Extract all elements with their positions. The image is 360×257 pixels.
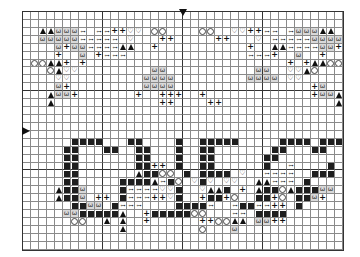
grid-cell: [247, 170, 255, 178]
grid-cell: [39, 139, 47, 147]
grid-cell: [55, 194, 63, 202]
grid-cell: [39, 67, 47, 75]
grid-cell: [39, 155, 47, 163]
grid-cell: [79, 131, 87, 139]
grid-cell: +: [199, 194, 207, 202]
grid-cell: [143, 20, 151, 28]
grid-cell: [183, 147, 191, 155]
grid-cell: [95, 67, 103, 75]
grid-cell: [239, 99, 247, 107]
grid-cell: [127, 226, 135, 234]
grid-cell: [111, 60, 119, 68]
grid-cell: [87, 194, 95, 202]
grid-cell: [191, 99, 199, 107]
grid-cell: [295, 202, 303, 210]
grid-cell: [199, 170, 207, 178]
grid-cell: [311, 202, 319, 210]
grid-cell: [31, 155, 39, 163]
grid-cell: [95, 83, 103, 91]
grid-cell: [335, 123, 343, 131]
grid-cell: [311, 131, 319, 139]
grid-cell: [191, 60, 199, 68]
grid-cell: [303, 123, 311, 131]
grid-cell: [103, 147, 111, 155]
grid-cell: [287, 12, 295, 20]
grid-cell: [151, 115, 159, 123]
grid-cell: [175, 28, 183, 36]
grid-cell: [231, 36, 239, 44]
filled-square-icon: [144, 179, 150, 185]
grid-cell: [207, 163, 215, 171]
grid-cell: [207, 194, 215, 202]
grid-cell: [135, 163, 143, 171]
grid-cell: [167, 226, 175, 234]
grid-cell: [135, 60, 143, 68]
grid-cell: [311, 12, 319, 20]
triangle-icon: [312, 60, 318, 66]
triangle-icon: [56, 60, 62, 66]
grid-cell: [223, 44, 231, 52]
grid-cell: ⊶: [87, 44, 95, 52]
grid-cell: [335, 115, 343, 123]
filled-square-icon: [264, 163, 270, 169]
plus-icon: +: [159, 36, 166, 43]
grid-cell: ⊶: [79, 28, 87, 36]
grid-cell: [271, 123, 279, 131]
grid-cell: ω: [311, 36, 319, 44]
grid-cell: [23, 202, 31, 210]
filled-square-icon: [112, 147, 118, 153]
omega-icon: ω: [263, 218, 270, 225]
circle-icon: [279, 194, 286, 201]
grid-cell: +: [207, 99, 215, 107]
grid-cell: [103, 139, 111, 147]
grid-cell: [207, 123, 215, 131]
triangle-icon: [280, 44, 286, 50]
grid-cell: [239, 83, 247, 91]
filled-square-icon: [72, 195, 78, 201]
grid-cell: [183, 60, 191, 68]
grid-cell: [239, 107, 247, 115]
grid-cell: [39, 186, 47, 194]
triangle-icon: [40, 28, 46, 34]
grid-cell: [207, 91, 215, 99]
grid-cell: [79, 218, 87, 226]
grid-cell: ω: [167, 75, 175, 83]
grid-cell: [183, 210, 191, 218]
grid-cell: [71, 147, 79, 155]
grid-cell: [175, 170, 183, 178]
grid-cell: [127, 60, 135, 68]
grid-cell: [303, 115, 311, 123]
grid-cell: [247, 226, 255, 234]
grid-cell: [215, 52, 223, 60]
triangle-icon: [120, 218, 126, 224]
grid-cell: [87, 20, 95, 28]
grid-cell: [215, 226, 223, 234]
grid-cell: [191, 139, 199, 147]
grid-cell: [87, 12, 95, 20]
grid-cell: [79, 20, 87, 28]
grid-cell: [135, 75, 143, 83]
grid-cell: [167, 115, 175, 123]
grid-cell: [87, 155, 95, 163]
grid-cell: [55, 242, 63, 250]
grid-cell: [255, 44, 263, 52]
grid-cell: [223, 60, 231, 68]
grid-cell: [223, 226, 231, 234]
grid-cell: ⊶: [231, 210, 239, 218]
grid-cell: [119, 234, 127, 242]
filled-square-icon: [128, 179, 134, 185]
grid-cell: [151, 52, 159, 60]
filled-square-icon: [312, 147, 318, 153]
grid-cell: +: [143, 218, 151, 226]
grid-cell: [79, 99, 87, 107]
grid-cell: [295, 163, 303, 171]
grid-cell: +: [271, 194, 279, 202]
grid-cell: ♡: [295, 67, 303, 75]
filled-square-icon: [216, 139, 222, 145]
grid-cell: [295, 99, 303, 107]
filled-square-icon: [72, 203, 78, 209]
oval-pair-icon: ⊶: [137, 195, 141, 200]
grid-cell: [23, 20, 31, 28]
grid-cell: ⊶: [303, 44, 311, 52]
heart-icon: ♡: [167, 194, 173, 201]
